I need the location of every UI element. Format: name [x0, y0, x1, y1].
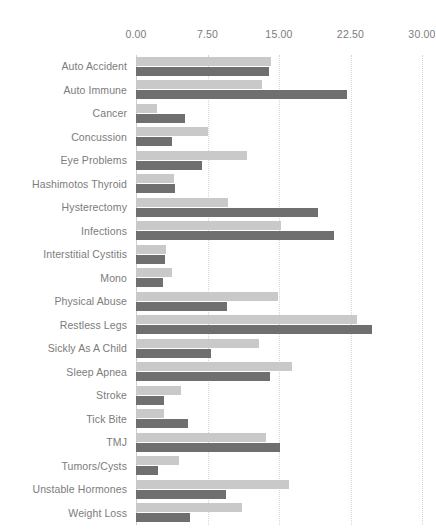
bar-series-1	[136, 325, 372, 334]
bar-series-0	[136, 57, 271, 66]
bar-series-0	[136, 268, 172, 277]
category-label: Infections	[0, 220, 127, 244]
bar-series-0	[136, 480, 289, 489]
category-label: Sickly As A Child	[0, 337, 127, 361]
bar-series-1	[136, 137, 172, 146]
bar-series-1	[136, 67, 269, 76]
bar-series-0	[136, 221, 281, 230]
x-tick-label: 15.00	[265, 28, 292, 41]
bar-series-0	[136, 315, 357, 324]
category-row: Mono	[136, 267, 422, 291]
category-label: Auto Immune	[0, 79, 127, 103]
category-label: Hashimotos Thyroid	[0, 173, 127, 197]
category-row: Interstitial Cystitis	[136, 243, 422, 267]
bar-series-0	[136, 362, 292, 371]
bar-series-1	[136, 490, 226, 499]
category-row: Tumors/Cysts	[136, 455, 422, 479]
category-row: Concussion	[136, 126, 422, 150]
category-row: Auto Accident	[136, 55, 422, 79]
bar-series-0	[136, 339, 259, 348]
category-row: Weight Loss	[136, 502, 422, 526]
category-row: Hysterectomy	[136, 196, 422, 220]
bar-series-1	[136, 184, 175, 193]
category-row: Restless Legs	[136, 314, 422, 338]
bar-series-0	[136, 104, 157, 113]
category-label: Cancer	[0, 102, 127, 126]
bar-series-1	[136, 90, 347, 99]
bar-series-0	[136, 174, 174, 183]
category-label: Concussion	[0, 126, 127, 150]
plot-area: Auto AccidentAuto ImmuneCancerConcussion…	[136, 55, 422, 525]
x-tick-label: 22.50	[337, 28, 364, 41]
bar-series-0	[136, 198, 228, 207]
bar-series-0	[136, 245, 166, 254]
category-label: Auto Accident	[0, 55, 127, 79]
bar-series-0	[136, 386, 181, 395]
category-row: Infections	[136, 220, 422, 244]
category-label: Eye Problems	[0, 149, 127, 173]
category-row: Stroke	[136, 384, 422, 408]
category-label: Weight Loss	[0, 502, 127, 526]
category-rows: Auto AccidentAuto ImmuneCancerConcussion…	[136, 55, 422, 525]
bar-series-1	[136, 443, 280, 452]
category-label: TMJ	[0, 431, 127, 455]
category-row: Unstable Hormones	[136, 478, 422, 502]
bar-series-1	[136, 114, 185, 123]
bar-series-0	[136, 292, 278, 301]
x-tick-label: 7.50	[197, 28, 218, 41]
category-row: Sleep Apnea	[136, 361, 422, 385]
bar-series-1	[136, 161, 202, 170]
bar-series-1	[136, 255, 165, 264]
category-label: Interstitial Cystitis	[0, 243, 127, 267]
category-label: Physical Abuse	[0, 290, 127, 314]
bar-series-0	[136, 151, 247, 160]
bar-series-1	[136, 513, 190, 522]
category-label: Sleep Apnea	[0, 361, 127, 385]
category-label: Stroke	[0, 384, 127, 408]
category-label: Unstable Hormones	[0, 478, 127, 502]
category-row: Hashimotos Thyroid	[136, 173, 422, 197]
category-row: Tick Bite	[136, 408, 422, 432]
category-row: Auto Immune	[136, 79, 422, 103]
category-row: TMJ	[136, 431, 422, 455]
bar-series-0	[136, 433, 266, 442]
category-row: Eye Problems	[136, 149, 422, 173]
bar-series-0	[136, 409, 164, 418]
bar-series-1	[136, 419, 188, 428]
category-label: Restless Legs	[0, 314, 127, 338]
category-label: Tumors/Cysts	[0, 455, 127, 479]
x-tick-label: 0.00	[125, 28, 146, 41]
category-label: Mono	[0, 267, 127, 291]
bar-series-1	[136, 349, 211, 358]
bar-series-0	[136, 127, 208, 136]
bar-series-1	[136, 466, 158, 475]
bar-series-1	[136, 278, 163, 287]
category-row: Sickly As A Child	[136, 337, 422, 361]
category-row: Cancer	[136, 102, 422, 126]
bar-series-1	[136, 208, 318, 217]
bar-series-1	[136, 372, 270, 381]
x-tick-label: 30.00	[408, 28, 435, 41]
bar-series-0	[136, 503, 242, 512]
category-label: Hysterectomy	[0, 196, 127, 220]
bar-series-0	[136, 456, 179, 465]
bar-series-1	[136, 231, 334, 240]
gridline	[422, 55, 424, 525]
bar-series-0	[136, 80, 262, 89]
x-axis-tick-labels: 0.007.5015.0022.5030.00	[0, 28, 433, 44]
category-label: Tick Bite	[0, 408, 127, 432]
bar-series-1	[136, 396, 164, 405]
category-row: Physical Abuse	[136, 290, 422, 314]
bar-series-1	[136, 302, 227, 311]
